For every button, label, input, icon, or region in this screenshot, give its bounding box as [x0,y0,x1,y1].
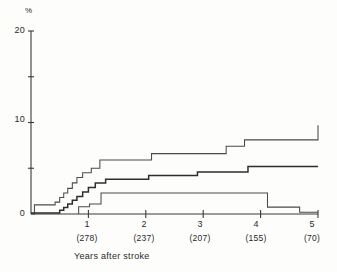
chart-figure: % 20 10 0 1 2 3 4 5 (278) (237) (207) (1… [0,0,337,272]
lower-curve-path [79,193,318,214]
middle-curve-path [31,166,318,213]
axes-group [31,31,318,214]
chart-plot-area [0,0,337,272]
